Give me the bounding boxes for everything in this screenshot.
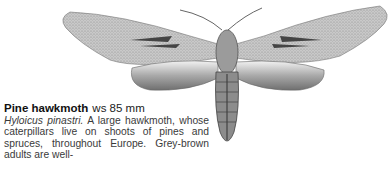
species-heading: Pine hawkmothws 85 mm	[4, 101, 209, 115]
latin-name: Hyloicus pinastri.	[4, 115, 83, 126]
species-description: Hyloicus pinastri. A large hawkmoth, who…	[4, 115, 209, 161]
common-name: Pine hawkmoth	[4, 102, 88, 114]
wingspan: ws 85 mm	[92, 102, 144, 114]
species-entry: Pine hawkmothws 85 mm Hyloicus pinastri.…	[4, 101, 209, 161]
